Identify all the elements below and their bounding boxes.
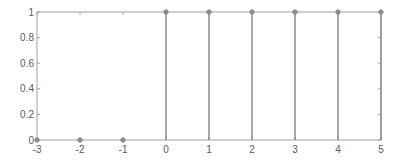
y-axis: 00.20.40.60.81 bbox=[20, 7, 381, 146]
x-tick-label: 4 bbox=[335, 144, 341, 155]
stem-marker bbox=[78, 138, 82, 142]
stem-marker bbox=[293, 10, 297, 14]
stem-series bbox=[35, 10, 383, 142]
y-tick-label: 0.6 bbox=[20, 58, 34, 69]
stem-marker bbox=[379, 10, 383, 14]
x-tick-label: -1 bbox=[119, 144, 128, 155]
x-tick-label: -2 bbox=[76, 144, 85, 155]
y-tick-label: 0.8 bbox=[20, 32, 34, 43]
stem-marker bbox=[207, 10, 211, 14]
x-tick-label: -3 bbox=[33, 144, 42, 155]
y-tick-label: 0.4 bbox=[20, 83, 34, 94]
x-tick-label: 5 bbox=[378, 144, 384, 155]
x-tick-label: 1 bbox=[206, 144, 212, 155]
y-tick-label: 0.2 bbox=[20, 109, 34, 120]
stem-marker bbox=[35, 138, 39, 142]
stem-marker bbox=[164, 10, 168, 14]
y-tick-label: 1 bbox=[28, 7, 34, 18]
stem-marker bbox=[336, 10, 340, 14]
stem-marker bbox=[250, 10, 254, 14]
stem-marker bbox=[121, 138, 125, 142]
x-tick-label: 3 bbox=[292, 144, 298, 155]
stem-chart: 00.20.40.60.81 -3-2-1012345 bbox=[0, 0, 401, 164]
x-tick-label: 0 bbox=[163, 144, 169, 155]
x-tick-label: 2 bbox=[249, 144, 255, 155]
